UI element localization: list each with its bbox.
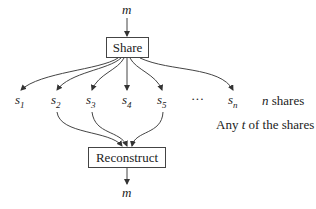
- share-s4: s4: [122, 92, 132, 110]
- share-s5: s5: [157, 92, 167, 110]
- share-s3: s3: [86, 92, 96, 110]
- share-box: Share: [106, 37, 149, 58]
- share-sn: sn: [228, 92, 238, 110]
- output-message-label: m: [122, 185, 131, 201]
- share-s1: s1: [15, 92, 25, 110]
- input-message-label: m: [122, 2, 131, 18]
- any-t-label: Any t of the shares: [216, 117, 314, 133]
- reconstruct-box: Reconstruct: [88, 147, 166, 168]
- n-shares-label: n shares: [262, 93, 304, 109]
- ellipsis: ···: [191, 91, 204, 107]
- share-s2: s2: [51, 92, 61, 110]
